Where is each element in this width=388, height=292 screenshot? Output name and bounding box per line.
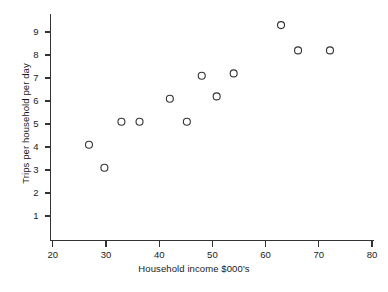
data-point <box>183 118 190 125</box>
data-point <box>230 70 237 77</box>
data-point <box>166 95 173 102</box>
data-point <box>85 141 92 148</box>
data-point <box>213 93 220 100</box>
x-tick-label: 40 <box>147 249 171 260</box>
x-tick-label: 30 <box>94 249 118 260</box>
data-point <box>278 22 285 29</box>
y-axis-title: Trips per household per day <box>20 24 31 224</box>
axis-ticks <box>45 32 373 247</box>
data-point <box>101 164 108 171</box>
data-point <box>326 47 333 54</box>
data-point <box>198 72 205 79</box>
x-tick-label: 60 <box>254 249 278 260</box>
x-tick-label: 80 <box>360 249 384 260</box>
data-points <box>85 22 333 172</box>
data-point <box>118 118 125 125</box>
x-tick-label: 50 <box>200 249 224 260</box>
x-axis-title: Household income $000's <box>0 263 388 274</box>
x-tick-label: 70 <box>307 249 331 260</box>
data-point <box>295 47 302 54</box>
axis-lines <box>51 14 375 241</box>
data-point <box>136 118 143 125</box>
scatter-chart: 123456789 20304050607080 Trips per house… <box>0 0 388 292</box>
x-tick-label: 20 <box>41 249 65 260</box>
